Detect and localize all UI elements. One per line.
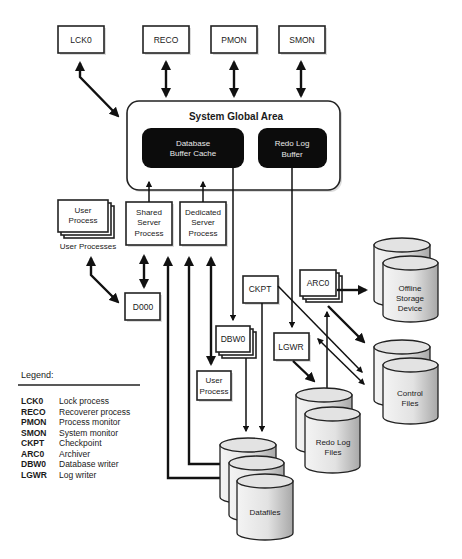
db-buffer-cache-label-1: Database <box>176 139 211 148</box>
legend-code: RECO <box>21 407 46 417</box>
redo-log-buffer-label-1: Redo Log <box>275 139 310 148</box>
legend-heading: Legend: <box>21 370 54 380</box>
shared-server-label-3: Process <box>135 229 164 238</box>
lck0-label: LCK0 <box>70 35 92 45</box>
legend-desc: Process monitor <box>59 417 121 427</box>
legend-code: LCK0 <box>21 396 43 406</box>
smon-label: SMON <box>289 35 315 45</box>
legend: Legend: LCK0 Lock process RECO Recoverer… <box>18 370 140 480</box>
dedicated-server-label-1: Dedicated <box>185 208 221 217</box>
offline-storage-label-1: Offline <box>399 284 423 293</box>
legend-code: PMON <box>21 417 47 427</box>
datafiles-shared-server-arrow <box>168 258 224 478</box>
user-process-single: User Process <box>197 371 233 402</box>
lgwr-redo-log-files-arrow <box>293 361 314 381</box>
legend-desc: Database writer <box>59 459 119 469</box>
d000-label: D000 <box>133 302 154 312</box>
offline-storage-device: Offline Storage Device <box>374 238 438 322</box>
ckpt-box: CKPT <box>243 276 280 305</box>
sga-title: System Global Area <box>189 111 284 122</box>
legend-desc: Recoverer process <box>59 407 130 417</box>
control-files: Control Files <box>374 340 438 424</box>
datafiles: Datafiles <box>220 438 293 540</box>
reco-label: RECO <box>154 35 179 45</box>
reco-box: RECO <box>143 26 191 55</box>
datafiles-label: Datafiles <box>249 508 280 517</box>
control-files-label-1: Control <box>397 389 423 398</box>
user-process-stack: User Process User Processes <box>58 200 116 251</box>
legend-entry: SMON System monitor <box>21 428 118 438</box>
lgwr-label: LGWR <box>278 342 304 352</box>
user-processes-d000-arrow <box>91 258 118 302</box>
redo-log-files-label-2: Files <box>325 448 342 457</box>
arc0-control-files-arrow <box>328 306 364 342</box>
legend-desc: Archiver <box>59 449 90 459</box>
legend-entry: LCK0 Lock process <box>21 396 109 406</box>
dbw0-box: DBW0 <box>216 326 256 358</box>
redo-log-files-label-1: Redo Log <box>316 438 351 447</box>
redo-log-buffer: Redo Log Buffer <box>258 128 327 168</box>
redo-log-files: Redo Log Files <box>296 388 360 473</box>
database-buffer-cache: Database Buffer Cache <box>142 128 244 168</box>
legend-entry: PMON Process monitor <box>21 417 121 427</box>
legend-code: SMON <box>21 428 47 438</box>
user-process-stack-label-1: User <box>75 206 92 215</box>
user-process-single-label-1: User <box>206 376 223 385</box>
system-global-area: System Global Area Database Buffer Cache… <box>127 101 342 192</box>
legend-desc: Lock process <box>59 396 109 406</box>
legend-code: LGWR <box>21 470 47 480</box>
dedicated-server-process: Dedicated Server Process <box>180 202 228 247</box>
legend-entry: DBW0 Database writer <box>21 459 119 469</box>
dedicated-server-label-3: Process <box>189 229 218 238</box>
user-processes-caption: User Processes <box>60 242 116 251</box>
legend-desc: System monitor <box>59 428 118 438</box>
dbw0-label: DBW0 <box>221 334 246 344</box>
smon-box: SMON <box>279 26 327 55</box>
user-process-stack-label-2: Process <box>69 216 98 225</box>
legend-entry: CKPT Checkpoint <box>21 438 102 448</box>
shared-server-label-1: Shared <box>136 208 162 217</box>
db-buffer-cache-label-2: Buffer Cache <box>170 149 217 158</box>
ckpt-label: CKPT <box>249 284 272 294</box>
dedicated-server-label-2: Server <box>191 218 215 227</box>
offline-storage-label-3: Device <box>398 304 423 313</box>
legend-entry: RECO Recoverer process <box>21 407 130 417</box>
lgwr-box: LGWR <box>274 333 311 362</box>
lck0-sga-arrow <box>80 63 118 116</box>
legend-code: DBW0 <box>21 459 46 469</box>
legend-entry: ARC0 Archiver <box>21 449 90 459</box>
shared-server-process: Shared Server Process <box>126 202 174 247</box>
arc0-label: ARC0 <box>307 278 330 288</box>
arc0-box: ARC0 <box>300 270 342 302</box>
d000-box: D000 <box>125 293 162 322</box>
user-process-single-label-2: Process <box>200 387 229 396</box>
pmon-label: PMON <box>221 35 247 45</box>
lgwr-control-files-arrow <box>318 339 364 384</box>
oracle-instance-architecture-diagram: LCK0 RECO PMON SMON System Global Area D… <box>0 0 462 559</box>
legend-code: CKPT <box>21 438 45 448</box>
pmon-box: PMON <box>211 26 259 55</box>
lck0-box: LCK0 <box>58 26 106 55</box>
legend-desc: Log writer <box>59 470 96 480</box>
offline-storage-label-2: Storage <box>396 294 425 303</box>
shared-server-label-2: Server <box>137 218 161 227</box>
legend-entry: LGWR Log writer <box>21 470 96 480</box>
legend-code: ARC0 <box>21 449 44 459</box>
legend-desc: Checkpoint <box>59 438 102 448</box>
datafiles-dedicated-server-arrow <box>189 258 224 464</box>
redo-log-buffer-label-2: Buffer <box>281 150 303 159</box>
control-files-label-2: Files <box>402 399 419 408</box>
